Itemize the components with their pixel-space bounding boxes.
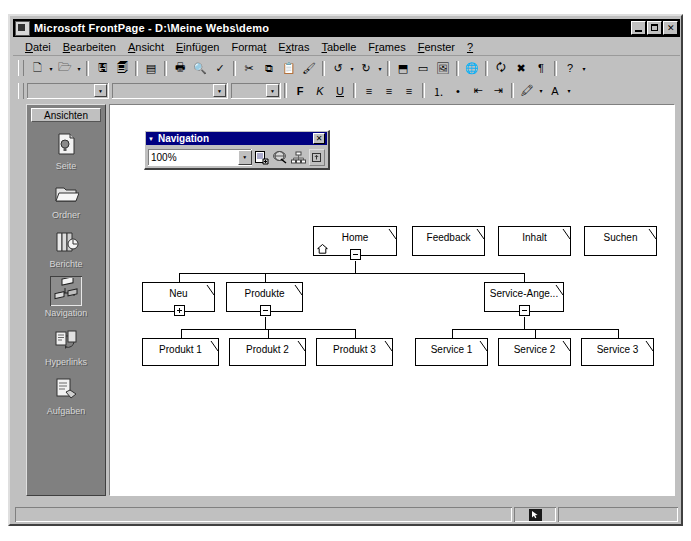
rotate-view-icon[interactable] [309, 149, 325, 166]
print-preview-button[interactable]: 🔍 [190, 59, 210, 77]
menu-ansicht[interactable]: Ansicht [122, 40, 170, 54]
chevron-down-icon[interactable]: ▼ [238, 150, 252, 165]
chevron-down-icon[interactable]: ▾ [580, 59, 588, 77]
tree-node-feedback[interactable]: Feedback [412, 226, 485, 256]
menu-fenster[interactable]: Fenster [412, 40, 461, 54]
hyperlink-button[interactable]: 🌐 [462, 59, 482, 77]
save-button[interactable]: 🖫 [92, 59, 112, 77]
insert-component-button[interactable]: ⬒ [393, 59, 413, 77]
tree-node-produkt3[interactable]: Produkt 3 [316, 338, 393, 366]
decrease-indent-button[interactable]: ⇤ [468, 82, 488, 100]
navigation-toolbar-titlebar[interactable]: ▼ Navigation ✕ [146, 132, 327, 145]
tree-node-produkte[interactable]: Produkte [226, 282, 303, 312]
help-button[interactable]: ? [560, 59, 580, 77]
menu-bearbeiten[interactable]: Bearbeiten [57, 40, 122, 54]
tree-node-service1[interactable]: Service 1 [415, 338, 488, 366]
collapse-toggle-icon[interactable] [260, 305, 271, 316]
refresh-button[interactable]: 🗘 [491, 59, 511, 77]
stop-button[interactable]: ✖ [511, 59, 531, 77]
menu-frames[interactable]: Frames [362, 40, 411, 54]
new-page-button[interactable]: 🗋 [27, 59, 47, 77]
chevron-down-icon[interactable]: ▾ [47, 59, 55, 77]
insert-table-button[interactable]: ▭ [413, 59, 433, 77]
print-button[interactable]: 🖶 [170, 59, 190, 77]
font-combo[interactable]: ▼ [112, 83, 228, 99]
close-icon[interactable]: ✕ [313, 133, 325, 144]
bold-button[interactable]: F [290, 82, 310, 100]
redo-button[interactable]: ↻ [356, 59, 376, 77]
menu-einfuegen[interactable]: Einfügen [170, 40, 225, 54]
increase-indent-button[interactable]: ⇥ [488, 82, 508, 100]
copy-button[interactable]: ⧉ [259, 59, 279, 77]
tree-node-inhalt[interactable]: Inhalt [498, 226, 571, 256]
paste-button[interactable]: 📋 [279, 59, 299, 77]
chevron-down-icon[interactable]: ▾ [376, 59, 384, 77]
publish-web-button[interactable]: 🗐 [112, 59, 132, 77]
sidebar-item-aufgaben[interactable]: Aufgaben [27, 374, 105, 416]
tree-node-service-angebot[interactable]: Service-Ange... [484, 282, 564, 312]
expand-toggle-icon[interactable] [174, 305, 185, 316]
tree-node-produkt1[interactable]: Produkt 1 [142, 338, 219, 366]
bulleted-list-button[interactable]: • [448, 82, 468, 100]
add-page-icon[interactable] [254, 149, 270, 166]
open-button[interactable]: 🗁 [55, 59, 75, 77]
align-left-button[interactable]: ≡ [359, 82, 379, 100]
undo-button[interactable]: ↺ [328, 59, 348, 77]
chevron-down-icon[interactable]: ▼ [148, 136, 154, 142]
menu-extras[interactable]: Extras [272, 40, 315, 54]
show-marks-button[interactable]: ¶ [531, 59, 551, 77]
highlight-button[interactable]: 🖍 [517, 82, 537, 100]
menu-datei[interactable]: Datei [19, 40, 57, 54]
sidebar-item-ordner[interactable]: Ordner [27, 178, 105, 220]
maximize-button[interactable] [647, 21, 662, 35]
sidebar-item-navigation[interactable]: Navigation [27, 276, 105, 318]
menu-tabelle[interactable]: Tabelle [315, 40, 362, 54]
font-color-button[interactable]: A [545, 82, 565, 100]
pointer-mode-icon[interactable] [529, 509, 542, 521]
page-fold-icon [559, 339, 570, 351]
style-combo[interactable]: ▼ [27, 83, 109, 99]
toolbar-grip[interactable] [18, 60, 24, 76]
chevron-down-icon[interactable]: ▼ [94, 84, 107, 97]
chevron-down-icon[interactable]: ▾ [537, 82, 545, 100]
cut-button[interactable]: ✂ [239, 59, 259, 77]
font-size-combo[interactable]: ▼ [231, 83, 281, 99]
chevron-down-icon[interactable]: ▾ [348, 59, 356, 77]
folder-list-button[interactable]: ▤ [141, 59, 161, 77]
chevron-down-icon[interactable]: ▼ [266, 84, 279, 97]
zoom-combo[interactable]: 100% ▼ [148, 149, 252, 166]
spelling-button[interactable]: ✓ [210, 59, 230, 77]
chevron-down-icon[interactable]: ▼ [213, 84, 226, 97]
sidebar-item-berichte[interactable]: Berichte [27, 227, 105, 269]
toolbar-grip[interactable] [18, 83, 24, 99]
tree-node-service2[interactable]: Service 2 [498, 338, 571, 366]
sidebar-item-seite[interactable]: Seite [27, 129, 105, 171]
close-button[interactable]: ✕ [663, 21, 678, 35]
collapse-toggle-icon[interactable] [350, 249, 361, 260]
subtree-icon[interactable] [290, 149, 306, 166]
chevron-down-icon[interactable]: ▾ [565, 82, 573, 100]
align-right-button[interactable]: ≡ [399, 82, 419, 100]
views-bar-item-label: Hyperlinks [45, 357, 87, 367]
tree-node-neu[interactable]: Neu [142, 282, 215, 312]
tree-node-service3[interactable]: Service 3 [581, 338, 654, 366]
page-fold-icon [203, 283, 214, 295]
align-center-button[interactable]: ≡ [379, 82, 399, 100]
minimize-button[interactable] [631, 21, 646, 35]
numbered-list-button[interactable]: ⒈ [428, 82, 448, 100]
tree-node-produkt2[interactable]: Produkt 2 [229, 338, 306, 366]
format-painter-button[interactable]: 🖌 [299, 59, 319, 77]
menu-format[interactable]: Format [225, 40, 272, 54]
underline-button[interactable]: U [330, 82, 350, 100]
tree-node-suchen[interactable]: Suchen [584, 226, 657, 256]
toolbar-separator [485, 61, 488, 76]
sidebar-item-hyperlinks[interactable]: Hyperlinks [27, 325, 105, 367]
menu-help[interactable]: ? [461, 40, 479, 54]
chevron-down-icon[interactable]: ▾ [75, 59, 83, 77]
italic-button[interactable]: K [310, 82, 330, 100]
globe-link-icon[interactable] [272, 149, 288, 166]
tree-node-home[interactable]: Home [313, 226, 397, 256]
insert-picture-button[interactable]: 🖼 [433, 59, 453, 77]
collapse-toggle-icon[interactable] [519, 305, 530, 316]
status-mode-cell[interactable] [514, 507, 556, 522]
